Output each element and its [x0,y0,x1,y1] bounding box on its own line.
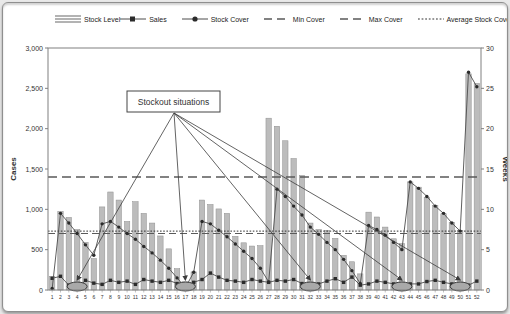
sales-marker [350,275,353,278]
x-tick-label: 19 [199,294,205,300]
line-circle-swatch-icon [182,15,208,23]
sales-marker [375,279,378,282]
stock-cover-marker [225,235,228,238]
sales-marker [100,283,103,286]
legend-item-sales: Sales [120,15,167,23]
stock-cover-marker [59,212,62,215]
sales-marker [292,278,295,281]
stock-level-bar [283,141,288,290]
sales-marker [434,279,437,282]
stock-level-bar [299,175,304,290]
stock-level-bar [457,230,462,290]
sales-marker [217,275,220,278]
x-tick-label: 10 [124,294,130,300]
sales-marker [284,279,287,282]
y-left-tick-label: 1,500 [25,166,43,173]
x-tick-label: 32 [308,294,314,300]
x-tick-label: 13 [149,294,155,300]
sales-marker [417,282,420,285]
chart-frame: Stock LevelSalesStock CoverMin CoverMax … [2,2,508,312]
sales-marker [200,278,203,281]
sales-marker [425,280,428,283]
x-tick-label: 44 [407,294,413,300]
stock-level-bar [99,207,104,290]
stock-level-bar [424,197,429,290]
stock-cover-marker [417,187,420,190]
sales-marker [367,282,370,285]
stock-cover-marker [117,225,120,228]
x-tick-label: 40 [374,294,380,300]
stock-cover-marker [192,271,195,274]
sales-marker [159,281,162,284]
stock-level-bar [116,200,121,290]
x-tick-label: 31 [299,294,305,300]
x-tick-label: 12 [141,294,147,300]
sales-marker [242,281,245,284]
stock-cover-marker [100,222,103,225]
x-tick-label: 28 [274,294,280,300]
x-tick-label: 17 [183,294,189,300]
x-tick-label: 18 [191,294,197,300]
dash-swatch-icon [264,15,290,23]
x-tick-label: 33 [316,294,322,300]
stock-cover-marker [267,280,270,283]
stock-cover-marker [359,282,362,285]
sales-marker [475,279,478,282]
stock-cover-marker [325,241,328,244]
stock-level-bar [416,187,421,290]
legend-item-average-stock-cover: Average Stock Cover [418,15,508,23]
sales-marker [84,279,87,282]
sales-marker [142,278,145,281]
stock-level-bars [49,74,479,290]
stock-level-chart: Stockout situations05001,0001,5002,0002,… [3,24,508,312]
x-tick-label: 9 [117,294,120,300]
x-tick-label: 51 [466,294,472,300]
stock-cover-marker [259,267,262,270]
sales-marker [342,281,345,284]
stock-cover-marker [400,248,403,251]
sales-marker [259,279,262,282]
x-tick-label: 45 [416,294,422,300]
stock-level-bar [208,204,213,290]
x-tick-label: 16 [174,294,180,300]
sales-marker [250,278,253,281]
stock-level-bar [224,213,229,290]
stock-cover-marker [217,229,220,232]
stock-level-bar [291,159,296,290]
x-tick-label: 21 [216,294,222,300]
x-tick-label: 48 [441,294,447,300]
legend-label: Average Stock Cover [447,16,508,23]
sales-marker [442,281,445,284]
x-tick-label: 11 [133,294,138,300]
stock-level-bar [316,230,321,291]
y-left-tick-label: 2,000 [25,125,43,132]
stock-cover-marker [134,237,137,240]
stock-level-bar [91,259,96,290]
x-tick-label: 43 [399,294,405,300]
stock-cover-marker [442,212,445,215]
stock-cover-marker [409,180,412,183]
x-tick-label: 15 [166,294,172,300]
dots-swatch-icon [418,15,444,23]
stock-cover-marker [175,276,178,279]
x-tick-label: 6 [92,294,95,300]
stockout-annotation-label: Stockout situations [138,97,209,107]
x-tick-label: 1 [51,294,54,300]
x-tick-label: 39 [366,294,372,300]
y-right-tick-label: 20 [486,125,494,132]
y-left-tick-label: 500 [31,246,43,253]
x-tick-label: 7 [101,294,104,300]
sales-marker [225,279,228,282]
stock-cover-marker [450,221,453,224]
x-tick-label: 2 [59,294,62,300]
y-right-tick-label: 10 [486,206,494,213]
stock-level-bar [199,200,204,290]
x-tick-label: 49 [449,294,455,300]
x-tick-label: 20 [208,294,214,300]
x-tick-label: 23 [233,294,239,300]
x-tick-label: 29 [283,294,289,300]
legend-item-max-cover: Max Cover [340,15,403,23]
legend-label: Sales [149,16,167,23]
legend-label: Stock Cover [211,16,249,23]
stock-cover-marker [242,250,245,253]
